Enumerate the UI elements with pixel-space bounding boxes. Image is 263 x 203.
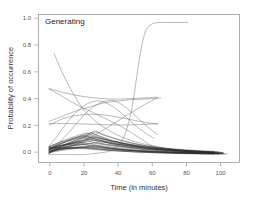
chart-figure: Generating 0.0 0.2 0.4 0.6 0.8 1.0 0 20 …	[0, 0, 263, 203]
y-tick-label: 0.6	[23, 69, 32, 75]
x-tick-label: 20	[81, 170, 88, 176]
x-tick-label: 40	[115, 170, 122, 176]
y-axis-title: Probability of occurrence	[6, 47, 15, 130]
y-tick-label: 0.0	[23, 149, 32, 155]
y-tick-label: 0.4	[23, 96, 32, 102]
y-tick-label: 1.0	[23, 15, 32, 21]
panel-title: Generating	[45, 17, 85, 26]
x-axis-title: Time (in minutes)	[110, 183, 168, 192]
y-tick-label: 0.8	[23, 42, 32, 48]
x-tick-label: 100	[216, 170, 227, 176]
probability-of-occurrence-line-chart: Generating 0.0 0.2 0.4 0.6 0.8 1.0 0 20 …	[0, 0, 263, 203]
y-tick-label: 0.2	[23, 123, 32, 129]
x-tick-label: 80	[183, 170, 190, 176]
x-tick-label: 60	[149, 170, 156, 176]
